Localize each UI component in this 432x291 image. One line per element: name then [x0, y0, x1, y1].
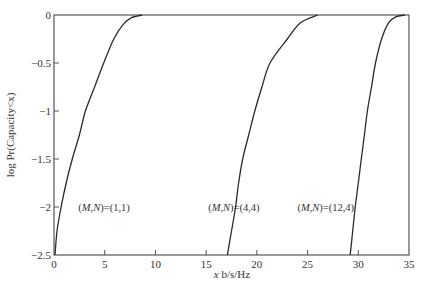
x-tick-label: 35 [404, 258, 416, 270]
x-tick-label: 5 [102, 258, 108, 270]
data-series [55, 15, 405, 255]
x-tick-label: 15 [201, 258, 213, 270]
annotation-1-1: (M,N)=(1,1) [78, 202, 130, 214]
annotation-12-4: (M,N)=(12,4) [297, 202, 354, 214]
x-tick-label: 30 [353, 258, 365, 270]
series-line-2 [227, 15, 317, 255]
plot-border [54, 15, 409, 255]
y-tick-label: −0.5 [31, 57, 51, 69]
x-tick-label: 20 [251, 258, 263, 270]
axis-ticks: 051015202530350−0.5−1−1.5−2−2.5 [31, 9, 415, 270]
y-tick-label: −1 [39, 105, 51, 117]
y-tick-label: −1.5 [31, 153, 51, 165]
series-line-1 [55, 15, 142, 255]
y-tick-label: 0 [46, 9, 52, 21]
y-axis-label: log Pr(Capacity<x) [4, 92, 17, 177]
x-tick-label: 0 [51, 258, 57, 270]
annotation-4-4: (M,N)=(4,4) [208, 202, 260, 214]
plot-frame [54, 15, 409, 255]
y-tick-label: −2 [39, 201, 51, 213]
x-tick-label: 25 [302, 258, 314, 270]
y-tick-label: −2.5 [31, 249, 51, 261]
x-tick-label: 10 [150, 258, 162, 270]
series-line-3 [350, 15, 405, 255]
capacity-cdf-chart: 051015202530350−0.5−1−1.5−2−2.5 (M,N)=(1… [0, 0, 432, 291]
x-axis-label: x b/s/Hz [213, 268, 250, 280]
